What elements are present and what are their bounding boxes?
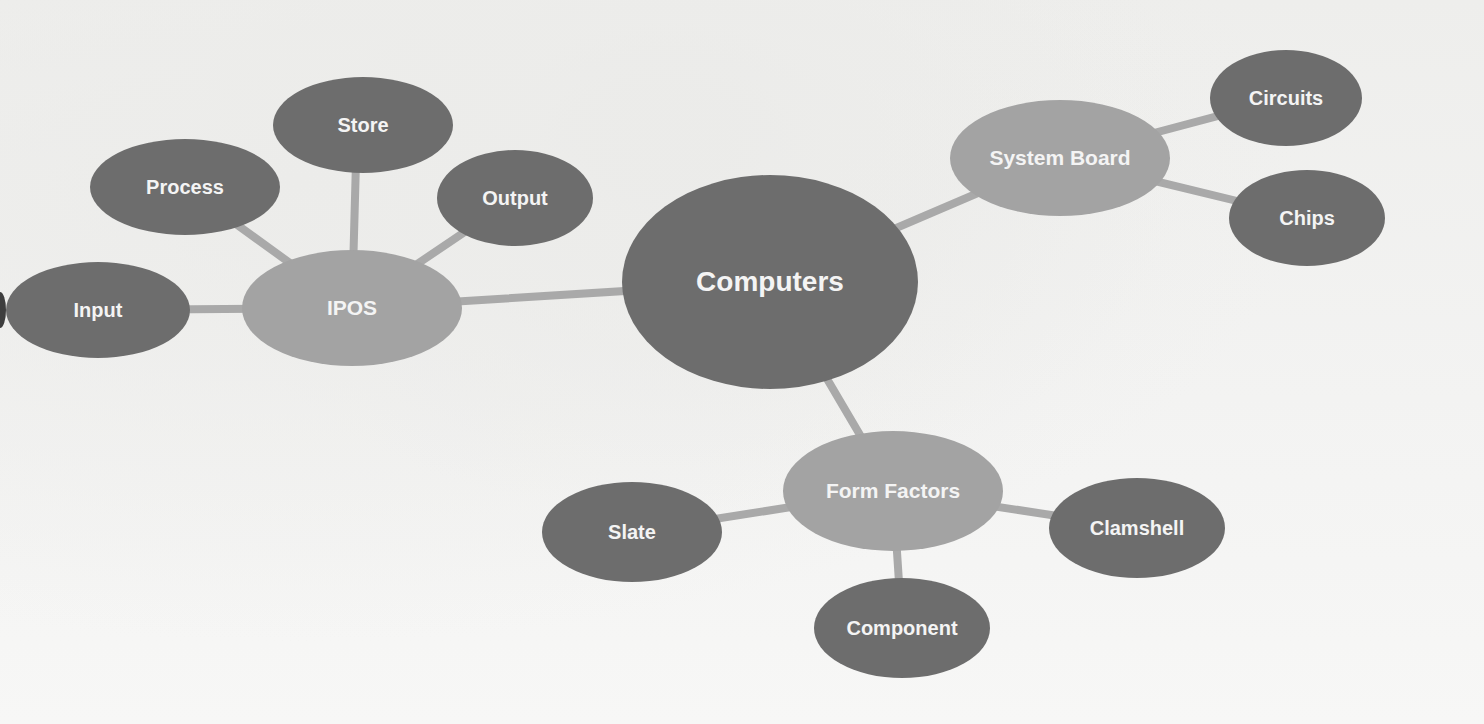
- node-label: Clamshell: [1090, 517, 1184, 540]
- node-chips[interactable]: Chips: [1229, 170, 1385, 266]
- node-component[interactable]: Component: [814, 578, 990, 678]
- node-clamshell[interactable]: Clamshell: [1049, 478, 1225, 578]
- node-store[interactable]: Store: [273, 77, 453, 173]
- node-label: Circuits: [1249, 87, 1323, 110]
- node-label: Process: [146, 176, 224, 199]
- node-circuits[interactable]: Circuits: [1210, 50, 1362, 146]
- node-label: Output: [482, 187, 548, 210]
- node-computers[interactable]: Computers: [622, 175, 918, 389]
- node-label: Chips: [1279, 207, 1335, 230]
- concept-map-canvas: Computers IPOS Input Process Store Outpu…: [0, 0, 1484, 724]
- node-input[interactable]: Input: [6, 262, 190, 358]
- node-label: IPOS: [327, 296, 377, 320]
- node-label: Component: [846, 617, 957, 640]
- node-label: Store: [337, 114, 388, 137]
- node-label: Input: [74, 299, 123, 322]
- node-ipos[interactable]: IPOS: [242, 250, 462, 366]
- node-label: Computers: [696, 266, 844, 298]
- node-label: Slate: [608, 521, 656, 544]
- node-process[interactable]: Process: [90, 139, 280, 235]
- node-output[interactable]: Output: [437, 150, 593, 246]
- node-slate[interactable]: Slate: [542, 482, 722, 582]
- node-label: Form Factors: [826, 479, 960, 503]
- node-label: System Board: [989, 146, 1130, 170]
- node-system-board[interactable]: System Board: [950, 100, 1170, 216]
- node-form-factors[interactable]: Form Factors: [783, 431, 1003, 551]
